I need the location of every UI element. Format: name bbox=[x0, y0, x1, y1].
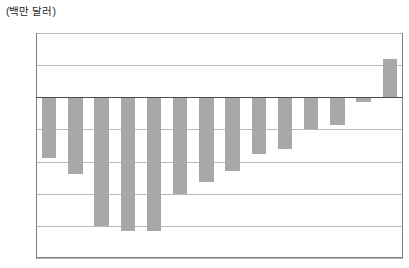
bar bbox=[121, 97, 135, 230]
zero-line bbox=[36, 97, 403, 98]
bar bbox=[252, 97, 266, 153]
bar bbox=[304, 97, 318, 129]
bar bbox=[199, 97, 213, 182]
bars-group bbox=[36, 33, 403, 258]
bar bbox=[68, 97, 82, 174]
bar bbox=[278, 97, 292, 148]
bar bbox=[225, 97, 239, 171]
bar bbox=[147, 97, 161, 230]
bar bbox=[330, 97, 344, 124]
bar bbox=[173, 97, 187, 193]
bar bbox=[42, 97, 56, 158]
bar bbox=[383, 59, 397, 98]
plot-area bbox=[36, 33, 403, 258]
gridline--100 bbox=[36, 258, 403, 259]
y-axis-unit-label: (백만 달러) bbox=[6, 3, 56, 18]
bar-chart: (백만 달러) 40200-20-40-60-80-100 bbox=[0, 0, 409, 268]
bar bbox=[94, 97, 108, 226]
